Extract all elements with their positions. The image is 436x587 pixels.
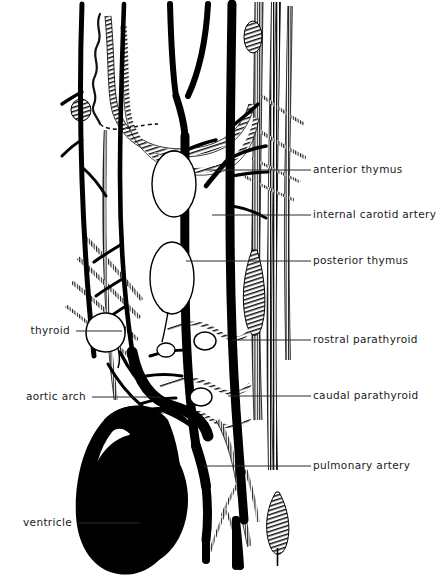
anterior-thymus-lobe <box>152 151 196 217</box>
label-posterior-thymus: posterior thymus <box>313 254 408 266</box>
label-anterior-thymus: anterior thymus <box>313 163 403 175</box>
label-rostral-parathyroid: rostral parathyroid <box>313 333 418 345</box>
ventricle <box>76 405 188 574</box>
hatched-leaf-body <box>267 492 289 566</box>
rostral-parathyroid-body <box>194 332 216 350</box>
thyroid-gland <box>86 313 125 368</box>
label-caudal-parathyroid: caudal parathyroid <box>313 389 418 401</box>
ganglion-upper-right <box>244 21 262 53</box>
label-thyroid: thyroid <box>0 324 70 336</box>
label-internal-carotid-artery: internal carotid artery <box>313 208 436 220</box>
caudal-parathyroid-body <box>190 388 212 406</box>
hatched-spindle-mid <box>243 250 265 335</box>
label-aortic-arch: aortic arch <box>0 390 86 402</box>
label-ventricle: ventricle <box>0 516 72 528</box>
label-pulmonary-artery: pulmonary artery <box>313 459 410 471</box>
